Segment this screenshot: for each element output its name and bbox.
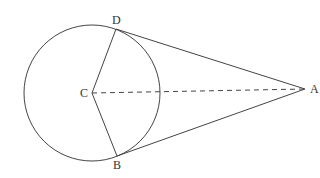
radius-cd — [92, 29, 116, 93]
point-label-b: B — [113, 158, 121, 172]
geometry-diagram: D C B A — [0, 0, 320, 178]
point-label-a: A — [310, 82, 319, 96]
point-label-c: C — [80, 86, 88, 100]
radius-cb — [92, 93, 117, 156]
point-label-d: D — [112, 13, 121, 27]
tangent-ba — [117, 89, 305, 156]
dashed-segment-ca — [92, 89, 305, 93]
tangent-da — [116, 29, 305, 89]
